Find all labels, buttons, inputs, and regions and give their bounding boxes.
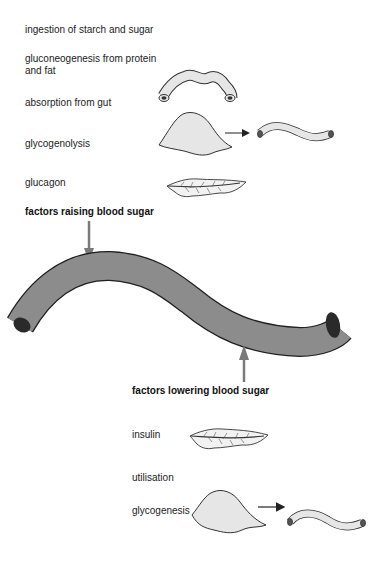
diagram-canvas [0,0,380,572]
liver-icon [159,112,232,155]
blood-vessel-icon [11,266,342,342]
intestine-icon [159,75,235,101]
pancreas-icon [167,179,246,197]
arrow-lowering [239,345,249,382]
vessel-small-icon [288,514,366,527]
liver-icon [192,490,266,532]
vessel-small-icon [258,126,334,137]
pancreas-icon [190,429,268,449]
